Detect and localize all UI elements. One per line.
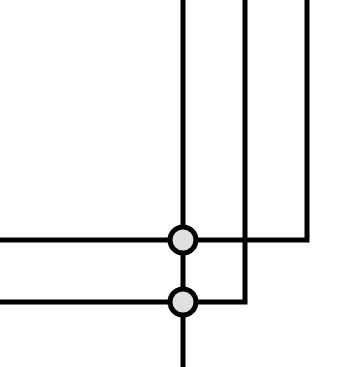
junction-node-icon bbox=[170, 289, 196, 315]
wire-v2-h2 bbox=[0, 0, 245, 302]
wire-v3-h1 bbox=[0, 0, 307, 240]
wire-diagram bbox=[0, 0, 341, 367]
wires bbox=[0, 0, 307, 367]
junction-node-icon bbox=[170, 227, 196, 253]
